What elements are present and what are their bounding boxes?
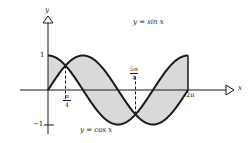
sin-curve-label: y = sin x: [133, 19, 164, 26]
x-axis-arrow-icon: [226, 85, 234, 95]
y-axis-arrow-icon: [43, 16, 53, 23]
x-axis-label: x: [238, 85, 242, 92]
y-tick-neg-1: −1: [33, 121, 43, 128]
x-tick-5pi4-denominator: 4: [132, 75, 136, 81]
x-tick-5pi4-numerator: 5π: [130, 66, 138, 72]
y-tick-1: 1: [40, 52, 44, 59]
x-tick-pi4-numerator: π: [65, 93, 69, 99]
y-axis-label: y: [45, 7, 49, 14]
x-tick-2pi: 2π: [186, 92, 194, 99]
x-tick-pi4-denominator: 4: [65, 102, 69, 108]
cos-curve-label: y = cos x: [80, 127, 112, 134]
x-tick-5pi-over-4: 5π 4: [130, 66, 138, 81]
x-tick-pi-over-4: π 4: [63, 93, 71, 108]
